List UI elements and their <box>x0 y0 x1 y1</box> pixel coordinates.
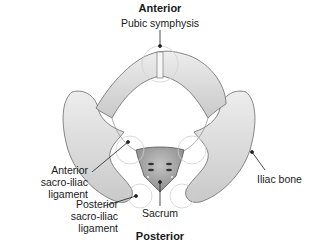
pubic-symphysis-joint <box>157 52 163 78</box>
posterior-heading: Posterior <box>125 230 195 242</box>
iliac-bone-label: Iliac bone <box>257 173 302 185</box>
posterior-si-ligament-label: Posterior sacro-iliac ligament <box>0 198 118 234</box>
anterior-heading: Anterior <box>130 2 190 14</box>
anterior-si-ligament-label: Anterior sacro-iliac ligament <box>0 164 88 200</box>
sacrum-label: Sacrum <box>135 207 185 219</box>
pelvis-diagram: Anterior Pubic symphysis Anterior sacro-… <box>0 0 318 245</box>
pubic-symphysis-label: Pubic symphysis <box>105 17 215 29</box>
